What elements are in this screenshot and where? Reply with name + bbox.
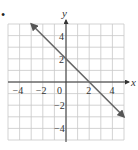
x-tick-label: 0 [57,85,62,96]
x-tick-label: 4 [109,85,114,96]
coordinate-plane: xy −4−202442−2−4 [0,0,138,150]
axes: xy [8,7,136,142]
x-tick-label: 2 [86,85,91,96]
y-tick-label: 4 [59,31,64,42]
y-tick-label: −2 [54,100,65,111]
x-tick-label: −2 [36,85,47,96]
x-axis-label: x [130,76,136,88]
y-axis-label: y [61,7,67,19]
x-tick-label: −4 [13,85,24,96]
y-tick-label: −4 [54,123,65,134]
